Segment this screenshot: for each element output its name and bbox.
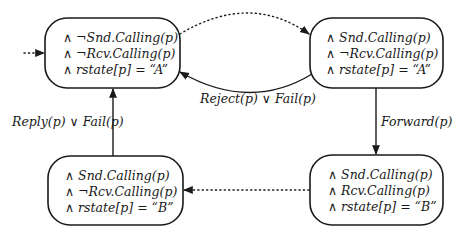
state-line: ∧ rstate[p] = “A” — [326, 62, 431, 77]
state-top-left: ∧ ¬Snd.Calling(p) ∧ ¬Rcv.Calling(p) ∧ rs… — [45, 18, 180, 88]
state-line: ∧ rstate[p] = “B” — [328, 199, 437, 214]
state-diagram: Reject(p) ∨ Fail(p) Forward(p) Reply(p) … — [0, 0, 461, 238]
edge-label-reject-or-fail: Reject(p) ∨ Fail(p) — [199, 91, 316, 106]
transition-topleft-to-topright — [180, 13, 309, 34]
state-line: ∧ Snd.Calling(p) — [65, 168, 170, 183]
state-line: ∧ Snd.Calling(p) — [326, 30, 431, 45]
state-line: ∧ rstate[p] = “A” — [63, 62, 168, 77]
state-line: ∧ Rcv.Calling(p) — [328, 183, 430, 198]
state-bottom-right: ∧ Snd.Calling(p) ∧ Rcv.Calling(p) ∧ rsta… — [310, 155, 443, 225]
edge-label-forward: Forward(p) — [380, 114, 452, 129]
transition-reject-or-fail — [180, 72, 312, 93]
state-line: ∧ ¬Snd.Calling(p) — [63, 30, 178, 45]
state-line: ∧ rstate[p] = “B” — [65, 200, 174, 215]
state-line: ∧ ¬Rcv.Calling(p) — [326, 46, 439, 61]
state-top-right: ∧ Snd.Calling(p) ∧ ¬Rcv.Calling(p) ∧ rst… — [310, 18, 443, 88]
state-line: ∧ Snd.Calling(p) — [328, 167, 433, 182]
state-bottom-left: ∧ Snd.Calling(p) ∧ ¬Rcv.Calling(p) ∧ rst… — [48, 156, 183, 225]
state-line: ∧ ¬Rcv.Calling(p) — [65, 184, 178, 199]
state-line: ∧ ¬Rcv.Calling(p) — [63, 46, 176, 61]
edge-label-reply-or-fail: Reply(p) ∨ Fail(p) — [11, 114, 124, 129]
